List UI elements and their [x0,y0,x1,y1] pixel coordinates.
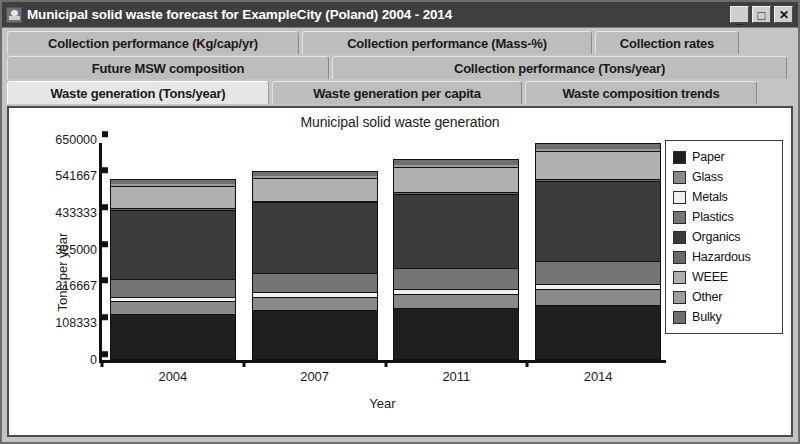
legend-label: Other [692,290,722,304]
y-tick-1: 108333 [55,317,102,330]
legend-label: Glass [692,170,723,184]
legend-swatch-glass [673,171,686,184]
x-axis-label: Year [99,396,666,411]
y-tick-label: 325000 [55,244,102,257]
title-bar: Municipal solid waste forecast for Examp… [2,2,798,28]
x-axis: 2004200720112014 [102,143,666,360]
x-tick-2 [384,360,387,367]
legend-item-metals[interactable]: Metals [673,187,777,207]
legend-item-plastics[interactable]: Plastics [673,207,777,227]
plot-area: 0108333216667325000433333541667650000 20… [99,143,666,363]
legend-item-other[interactable]: Other [673,287,777,307]
legend-swatch-metals [673,191,686,204]
torch-icon [6,7,22,23]
legend-swatch-paper [673,151,686,164]
legend-label: Organics [692,230,740,244]
y-tick-mark [102,131,108,137]
legend-swatch-organics [673,231,686,244]
tab-row-1: Collection performance (Kg/cap/yr)Collec… [7,31,793,54]
tab-future-msw-composition[interactable]: Future MSW composition [7,56,329,79]
legend-item-hazardous[interactable]: Hazardous [673,247,777,267]
y-tick-label: 433333 [55,207,102,220]
y-tick-3: 325000 [55,244,102,257]
close-button[interactable]: ✕ [774,6,793,23]
y-tick-label: 108333 [55,317,102,330]
chart-title: Municipal solid waste generation [9,114,791,130]
window-title: Municipal solid waste forecast for Examp… [27,7,730,22]
legend-label: Paper [692,150,724,164]
tab-waste-composition-trends[interactable]: Waste composition trends [525,81,757,104]
y-tick-5: 541667 [55,170,102,183]
y-tick-label: 541667 [55,170,102,183]
legend-swatch-weee [673,271,686,284]
tab-row-3: Waste generation (Tons/year)Waste genera… [7,81,793,104]
x-tick-1 [242,360,245,367]
y-tick-2: 216667 [55,280,102,293]
maximize-button[interactable]: □ [752,6,771,23]
chart-legend: PaperGlassMetalsPlasticsOrganicsHazardou… [665,140,783,334]
legend-swatch-bulky [673,311,686,324]
tab-collection-performance-kg-cap-yr[interactable]: Collection performance (Kg/cap/yr) [7,31,299,54]
tab-strip: Collection performance (Kg/cap/yr)Collec… [2,28,798,106]
legend-item-bulky[interactable]: Bulky [673,307,777,327]
tab-row-2: Future MSW compositionCollection perform… [7,56,793,79]
legend-swatch-other [673,291,686,304]
legend-label: Bulky [692,310,722,324]
tab-collection-performance-mass[interactable]: Collection performance (Mass-%) [302,31,592,54]
close-icon: ✕ [779,9,789,21]
tab-waste-generation-per-capita[interactable]: Waste generation per capita [272,81,522,104]
legend-label: Plastics [692,210,733,224]
legend-item-weee[interactable]: WEEE [673,267,777,287]
tab-collection-rates[interactable]: Collection rates [595,31,739,54]
x-tick-label-2011: 2011 [442,369,470,384]
y-tick-4: 433333 [55,207,102,220]
x-tick-label-2014: 2014 [584,369,613,384]
minimize-button[interactable]: _ [730,6,749,23]
legend-label: Metals [692,190,728,204]
legend-item-organics[interactable]: Organics [673,227,777,247]
chart-panel: Municipal solid waste generation Tons pe… [7,106,793,437]
x-tick-label-2007: 2007 [300,369,329,384]
x-tick-0 [101,360,104,367]
y-tick-6: 650000 [55,134,102,147]
tab-waste-generation-tons-year[interactable]: Waste generation (Tons/year) [7,81,269,104]
legend-swatch-plastics [673,211,686,224]
tab-collection-performance-tons-year[interactable]: Collection performance (Tons/year) [332,56,787,79]
legend-item-glass[interactable]: Glass [673,167,777,187]
x-tick-label-2004: 2004 [158,369,187,384]
application-window: Municipal solid waste forecast for Examp… [0,0,800,444]
legend-label: WEEE [692,270,728,284]
legend-label: Hazardous [692,250,751,264]
legend-swatch-hazardous [673,251,686,264]
window-controls: _ □ ✕ [730,6,795,23]
y-tick-label: 650000 [55,134,102,147]
minimize-icon: _ [736,11,744,25]
y-tick-label: 216667 [55,280,102,293]
legend-item-paper[interactable]: Paper [673,147,777,167]
x-tick-3 [526,360,529,367]
maximize-icon: □ [758,8,766,21]
